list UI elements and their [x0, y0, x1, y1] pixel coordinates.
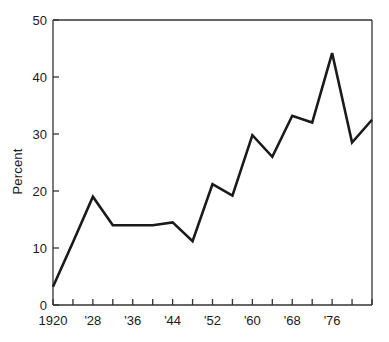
x-tick-label: 1920: [31, 314, 75, 327]
y-tick-label: 20: [17, 185, 47, 198]
axes-group: [53, 20, 372, 305]
x-tick-label: '28: [71, 314, 115, 327]
y-tick-label: 40: [17, 71, 47, 84]
y-tick-label: 30: [17, 128, 47, 141]
x-tick-label: '60: [230, 314, 274, 327]
x-tick-label: '52: [191, 314, 235, 327]
y-tick-label: 10: [17, 242, 47, 255]
x-tick-label: '68: [270, 314, 314, 327]
chart-figure: Percent 01020304050 1920'28'36'44'52'60'…: [0, 0, 389, 342]
y-tick-label: 0: [17, 299, 47, 312]
data-line-series-percent: [53, 53, 372, 287]
x-tick-label: '76: [310, 314, 354, 327]
x-tick-label: '36: [111, 314, 155, 327]
tick-marks-group: [53, 20, 372, 305]
x-tick-label: '44: [151, 314, 195, 327]
y-tick-label: 50: [17, 14, 47, 27]
chart-canvas: [0, 0, 389, 342]
